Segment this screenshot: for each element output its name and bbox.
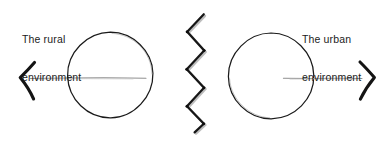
- rural-environment-label-line2: environment: [22, 71, 81, 84]
- zigzag-vertex: [186, 105, 189, 108]
- rural-environment-label-line1: The rural: [22, 33, 81, 46]
- urban-environment-label-line1: The urban: [302, 33, 361, 46]
- zigzag-vertex: [202, 122, 205, 125]
- urban-circle-shadow: [230, 79, 270, 118]
- zigzag-vertex: [203, 86, 206, 89]
- urban-environment-label: The urban environment: [302, 8, 361, 108]
- urban-arrowhead-icon: [360, 62, 374, 99]
- urban-circle-shape: [228, 33, 313, 119]
- rural-environment-label: The rural environment: [22, 8, 81, 108]
- zigzag-vertex: [203, 49, 206, 52]
- zigzag-vertex: [185, 68, 188, 71]
- zigzag-divider-group: [185, 14, 205, 133]
- rural-circle-shadow: [112, 33, 152, 74]
- diagram-canvas: The rural environment The urban environm…: [0, 0, 390, 145]
- urban-environment-label-line2: environment: [302, 71, 361, 84]
- zigzag-vertex: [186, 30, 189, 33]
